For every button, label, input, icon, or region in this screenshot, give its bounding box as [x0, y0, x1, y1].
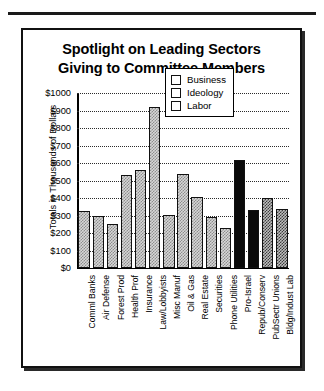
top-horizontal-rule	[8, 12, 316, 15]
x-axis-tick-label: Air Defense	[101, 275, 111, 320]
bar-insurance[interactable]	[135, 170, 146, 268]
bar-law-lobbyists[interactable]	[149, 107, 160, 268]
x-axis-tick-label: Comml Banks	[87, 275, 97, 328]
bar-pubsectr-unions[interactable]	[262, 198, 273, 268]
bar-air-defense[interactable]	[93, 216, 104, 269]
x-axis-tick-label: Oil & Gas	[186, 275, 196, 312]
legend-swatch-business-icon	[171, 75, 181, 85]
y-axis-tick-label: $500	[50, 176, 71, 186]
y-axis-tick-label: $700	[50, 141, 71, 151]
x-axis-tick-label: Forest Prod	[116, 275, 126, 320]
y-axis-tick-label: $200	[50, 228, 71, 238]
bar-oil-gas[interactable]	[177, 174, 188, 269]
x-axis-tick-label: Bldg/Indust Lab	[285, 275, 295, 335]
gridline	[77, 163, 289, 164]
gridline	[77, 268, 289, 269]
legend-swatch-labor-icon	[171, 101, 181, 111]
legend-swatch-ideology-icon	[171, 88, 181, 98]
y-axis-tick-label: $600	[50, 158, 71, 168]
bar-comml-banks[interactable]	[78, 211, 89, 268]
y-axis-tick-label: $800	[50, 123, 71, 133]
gridlines-and-bars: $1000$900$800$700$600$500$400$300$200$10…	[77, 93, 289, 268]
bar-bldg-indust-lab[interactable]	[276, 209, 287, 269]
legend-item-labor: Labor	[171, 99, 226, 112]
bar-forest-prod[interactable]	[107, 224, 118, 268]
bar-repub-conserv[interactable]	[248, 210, 259, 268]
chart-title-line-2: Giving to Committee Members	[23, 59, 300, 78]
x-axis-tick-label: Securities	[214, 275, 224, 313]
chart-frame: Spotlight on Leading Sectors Giving to C…	[21, 28, 302, 368]
x-axis-tick-label: Law/Lobbyists	[158, 275, 168, 329]
legend-label-labor: Labor	[187, 100, 212, 111]
chart-title-line-1: Spotlight on Leading Sectors	[23, 40, 300, 59]
x-axis-tick-label: Repub/Conserv	[257, 275, 267, 335]
y-axis-tick-label: $0	[61, 263, 71, 273]
bar-securities[interactable]	[206, 217, 217, 268]
plot-area: $1000$900$800$700$600$500$400$300$200$10…	[77, 93, 289, 268]
x-axis-tick-label: Real Estate	[200, 275, 210, 319]
x-axis-tick-label: Health Prof	[130, 275, 140, 318]
bar-misc-manuf[interactable]	[163, 215, 174, 268]
y-axis-tick-label: $1000	[45, 88, 71, 98]
x-axis-tick-label: Misc Manuf	[172, 275, 182, 319]
bar-phone-utilities[interactable]	[220, 228, 231, 268]
y-axis-tick-label: $300	[50, 211, 71, 221]
bar-real-estate[interactable]	[191, 197, 202, 268]
gridline	[77, 146, 289, 147]
y-axis-tick-label: $400	[50, 193, 71, 203]
y-axis-tick-label: $100	[50, 246, 71, 256]
x-axis-tick-label: Phone Utilities	[229, 275, 239, 330]
legend-label-business: Business	[187, 74, 226, 85]
x-axis-tick-label: Insurance	[144, 275, 154, 313]
legend-item-business: Business	[171, 73, 226, 86]
bar-pro-israel[interactable]	[234, 160, 245, 269]
chart-title: Spotlight on Leading Sectors Giving to C…	[23, 40, 300, 77]
gridline	[77, 128, 289, 129]
legend-item-ideology: Ideology	[171, 86, 226, 99]
x-axis-tick-label: Pro-Israel	[243, 275, 253, 312]
y-axis-tick-label: $900	[50, 106, 71, 116]
legend-label-ideology: Ideology	[187, 87, 223, 98]
chart-legend: Business Ideology Labor	[165, 68, 234, 117]
bar-health-prof[interactable]	[121, 175, 132, 268]
x-axis-tick-label: PubSectr Unions	[271, 275, 281, 340]
